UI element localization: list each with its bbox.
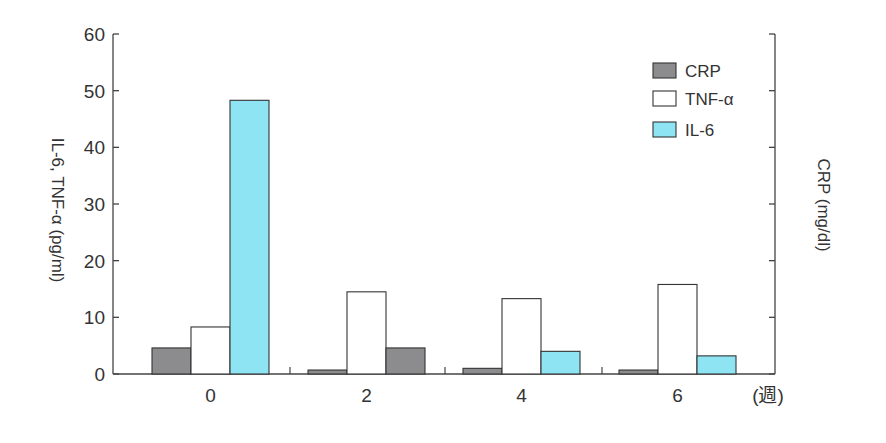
bar-tnf--week-2 bbox=[347, 292, 386, 374]
bar-crp-week-2 bbox=[308, 370, 347, 374]
y-tick-label: 10 bbox=[84, 307, 105, 328]
x-tick-label: 4 bbox=[516, 385, 527, 406]
bar-crp-week-6 bbox=[619, 370, 658, 374]
bar-crp-week-4 bbox=[463, 368, 502, 374]
bar-il-6-week-2 bbox=[386, 348, 425, 374]
bar-il-6-week-6 bbox=[697, 356, 736, 374]
y-tick-label: 20 bbox=[84, 251, 105, 272]
legend-label: IL-6 bbox=[685, 121, 714, 140]
y-axis-right-title: CRP (mg/dl) bbox=[814, 158, 833, 251]
x-tick-label: 0 bbox=[205, 385, 216, 406]
y-tick-label: 30 bbox=[84, 194, 105, 215]
legend-swatch-2 bbox=[653, 122, 676, 137]
legend-swatch-1 bbox=[653, 91, 676, 106]
y-tick-label: 0 bbox=[94, 364, 105, 385]
x-unit-label: (週) bbox=[752, 385, 784, 406]
x-tick-label: 6 bbox=[672, 385, 683, 406]
bar-il-6-week-0 bbox=[230, 100, 269, 374]
bar-tnf--week-4 bbox=[502, 299, 541, 374]
y-axis-left-title: IL-6, TNF-α (pg/ml) bbox=[48, 138, 67, 283]
plot-area: 01020304050600246(週)IL-6, TNF-α (pg/ml)C… bbox=[48, 24, 833, 406]
bar-il-6-week-4 bbox=[541, 351, 580, 374]
y-tick-label: 60 bbox=[84, 24, 105, 45]
legend-label: CRP bbox=[685, 62, 721, 81]
bar-tnf--week-0 bbox=[191, 327, 230, 374]
bar-tnf--week-6 bbox=[658, 284, 697, 374]
y-tick-label: 40 bbox=[84, 137, 105, 158]
y-tick-label: 50 bbox=[84, 81, 105, 102]
bar-crp-week-0 bbox=[152, 348, 191, 374]
bar-chart: 01020304050600246(週)IL-6, TNF-α (pg/ml)C… bbox=[0, 0, 886, 443]
legend-label: TNF-α bbox=[685, 90, 734, 109]
x-tick-label: 2 bbox=[361, 385, 372, 406]
legend-swatch-0 bbox=[653, 63, 676, 78]
